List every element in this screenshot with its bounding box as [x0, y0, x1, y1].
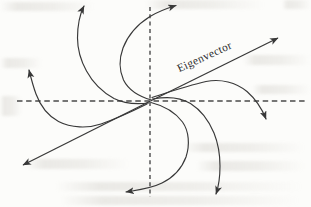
trajectory-left-hook — [29, 70, 147, 127]
axes-layer — [17, 7, 306, 197]
trajectories-layer — [23, 6, 278, 195]
textbook-figure-phase-portrait: Eigenvector — [0, 0, 311, 207]
trajectory-lower-right-vertical — [153, 98, 221, 194]
trajectory-top-loop — [120, 6, 176, 101]
trajectory-right-hook — [152, 81, 266, 119]
phase-portrait-svg: Eigenvector — [0, 0, 311, 207]
eigenvector-line — [23, 101, 151, 165]
eigenvector-label: Eigenvector — [175, 39, 234, 74]
trajectory-upper-left-vertical — [78, 6, 149, 104]
trajectory-bottom-loop — [126, 103, 188, 193]
